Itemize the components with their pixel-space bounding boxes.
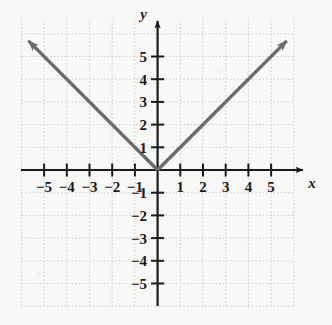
curve-left-branch	[29, 41, 158, 170]
x-tick-label: 1	[177, 179, 185, 195]
y-axis-label: y	[138, 6, 147, 22]
y-tick-label: −4	[131, 253, 148, 269]
y-tick-label: −2	[131, 208, 147, 224]
x-tick-label: 2	[199, 179, 207, 195]
x-tick-label: −5	[36, 179, 52, 195]
graph-figure: −5 −4 −3 −2 −1 1 2 3 4 5 5 4 3 2 1 −1 −2…	[0, 0, 332, 325]
x-tick-label: 3	[222, 179, 230, 195]
x-axis-label: x	[307, 175, 316, 191]
curve-right-branch	[158, 41, 287, 170]
x-tick-label: −2	[104, 179, 120, 195]
x-tick-label: −3	[81, 179, 97, 195]
y-tick-label: 2	[140, 117, 148, 133]
x-tick-label: 4	[245, 179, 253, 195]
y-tick-label: 5	[140, 49, 148, 65]
y-tick-label: 3	[140, 94, 148, 110]
y-tick-label: −3	[131, 231, 147, 247]
y-tick-label: −1	[131, 185, 147, 201]
coordinate-plane: −5 −4 −3 −2 −1 1 2 3 4 5 5 4 3 2 1 −1 −2…	[0, 0, 332, 325]
y-tick-label: −5	[131, 276, 147, 292]
y-tick-label: 1	[140, 140, 148, 156]
y-tick-label: 4	[140, 72, 148, 88]
x-tick-label: −4	[59, 179, 76, 195]
x-tick-label: 5	[267, 179, 275, 195]
